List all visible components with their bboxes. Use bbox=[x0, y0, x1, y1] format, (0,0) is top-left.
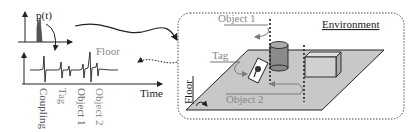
environment-title: Environment bbox=[322, 18, 379, 30]
box-object bbox=[305, 52, 341, 77]
dotted-arrow-from-environment bbox=[138, 60, 177, 63]
environment-panel: Environment Object 1 Tag bbox=[178, 12, 404, 119]
floor-label: Floor bbox=[182, 80, 194, 104]
event-label-coupling: Coupling bbox=[38, 88, 50, 129]
floor-signal-label: Floor bbox=[96, 45, 120, 57]
object1-label: Object 1 bbox=[218, 12, 256, 24]
time-axis-label: Time bbox=[140, 87, 163, 99]
event-label-tag: Tag bbox=[57, 88, 69, 105]
event-label-object2: Object 2 bbox=[94, 88, 106, 126]
pulse-plot-label: p(t) bbox=[36, 9, 52, 22]
pulse-waveform bbox=[37, 18, 42, 42]
curved-arrow-down bbox=[46, 24, 56, 50]
event-label-object1: Object 1 bbox=[76, 88, 88, 126]
tag-label: Tag bbox=[212, 49, 229, 61]
diagram-canvas: Floor Time p(t) Coupling Tag Object 1 Ob… bbox=[0, 0, 408, 132]
object1-reflection-arrow bbox=[255, 28, 269, 37]
solid-arrow-to-environment bbox=[75, 24, 177, 40]
cylinder-object bbox=[270, 42, 288, 72]
object2-label: Object 2 bbox=[226, 93, 264, 105]
event-labels: Coupling Tag Object 1 Object 2 bbox=[38, 88, 106, 129]
